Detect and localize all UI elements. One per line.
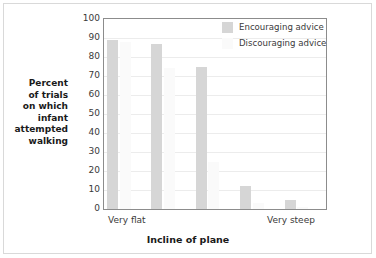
x-tick-very-flat: Very flat bbox=[108, 215, 146, 225]
legend-item-discouraging: Discouraging advice bbox=[222, 36, 322, 50]
legend-item-encouraging: Encouraging advice bbox=[222, 20, 322, 34]
bar bbox=[107, 40, 118, 209]
y-tick-label: 80 bbox=[70, 52, 100, 61]
y-tick-label: 70 bbox=[70, 71, 100, 80]
y-tick-label: 10 bbox=[70, 185, 100, 194]
chart-legend: Encouraging advice Discouraging advice bbox=[222, 20, 322, 52]
bar bbox=[120, 42, 131, 209]
y-tick-label: 40 bbox=[70, 128, 100, 137]
legend-label-encouraging: Encouraging advice bbox=[239, 22, 324, 32]
y-tick-label: 0 bbox=[70, 204, 100, 213]
bar bbox=[208, 162, 219, 210]
bar bbox=[253, 203, 264, 209]
legend-label-discouraging: Discouraging advice bbox=[239, 38, 326, 48]
y-tick-label: 90 bbox=[70, 33, 100, 42]
bar bbox=[164, 68, 175, 209]
y-axis-ticks: 1009080706050403020100 bbox=[70, 0, 100, 258]
y-tick-label: 100 bbox=[70, 14, 100, 23]
legend-swatch-encouraging-icon bbox=[222, 22, 233, 33]
y-tick-label: 50 bbox=[70, 109, 100, 118]
bar bbox=[151, 44, 162, 209]
bar bbox=[285, 200, 296, 210]
y-tick-label: 60 bbox=[70, 90, 100, 99]
chart-figure: Percent of trials on which infant attemp… bbox=[0, 0, 376, 258]
y-tick-label: 30 bbox=[70, 147, 100, 156]
x-tick-very-steep: Very steep bbox=[267, 215, 315, 225]
legend-swatch-discouraging-icon bbox=[222, 38, 233, 49]
y-axis-title: Percent of trials on which infant attemp… bbox=[6, 78, 68, 148]
y-tick-label: 20 bbox=[70, 166, 100, 175]
bar bbox=[297, 207, 308, 209]
x-axis-title: Incline of plane bbox=[0, 234, 376, 245]
bar bbox=[240, 186, 251, 209]
bar bbox=[196, 67, 207, 210]
